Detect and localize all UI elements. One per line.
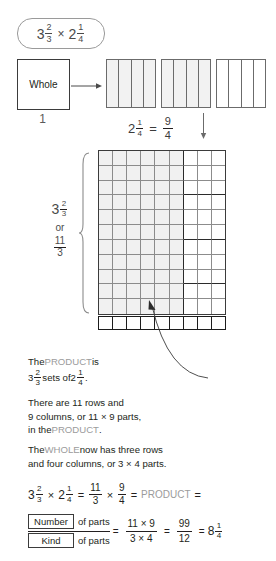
grid-cell (170, 151, 184, 166)
grid-row (99, 181, 225, 196)
final-answer-line: Number of parts Kind of parts = 11 × 9 3… (28, 514, 223, 548)
grid-cell (184, 166, 198, 181)
left-whole: 3 (52, 202, 60, 216)
grid-cell (113, 240, 127, 255)
grid-cell (198, 270, 212, 285)
grid-cell (198, 195, 212, 210)
grid-cell (198, 181, 212, 196)
grid-cell (99, 240, 113, 255)
bottom-strip-cell (113, 317, 127, 329)
final-fraction-1: 11 × 9 3 × 4 (126, 518, 157, 544)
grid-cell (170, 225, 184, 240)
number-over-kind-fraction: Number of parts Kind of parts (28, 514, 110, 548)
expression-pill: 3 2 3 × 2 1 4 (17, 18, 105, 49)
strip-equivalence-caption: 2 1 4 = 9 4 (128, 116, 174, 141)
text-the: The (28, 355, 45, 369)
text-in-the: in the (28, 423, 51, 437)
grid-row (99, 210, 225, 225)
grid-cell (99, 255, 113, 270)
grid-cell (141, 210, 155, 225)
grid-cell (113, 284, 127, 299)
denominator-row: Kind of parts (28, 533, 110, 548)
text-rows-line-1: There are 11 rows and (28, 396, 208, 410)
whole-box: Whole (17, 59, 70, 110)
text-whole-line-2: and four columns, or 3 × 4 parts. (28, 457, 228, 471)
grid-cell (212, 299, 225, 314)
strip-cell (187, 60, 199, 107)
text-period: . (99, 423, 102, 437)
pill-whole-b: 2 (69, 27, 77, 41)
text-rows-line-3: in the PRODUCT . (28, 423, 208, 437)
final-equals-1: = (113, 526, 119, 537)
strip-cell (242, 60, 254, 107)
grid-cell (127, 195, 141, 210)
bottom-strip-cell (99, 317, 113, 329)
number-box: Number (28, 514, 74, 529)
strip-equals-symbol: = (149, 121, 157, 136)
grid-row (99, 284, 225, 299)
grid-row (99, 195, 225, 210)
quarter-strip-1 (106, 59, 156, 108)
text-product-block: The PRODUCT is 3 2 3 sets of 2 1 4 (28, 355, 198, 387)
eq-mixed-a: 3 2 3 (28, 485, 44, 504)
left-multiplier-label: 3 2 3 or 11 3 (42, 200, 78, 259)
grid-cell (127, 270, 141, 285)
fraction-bar (28, 531, 110, 532)
strip-cell (229, 60, 241, 107)
grid-cell (155, 166, 169, 181)
grid-cell (113, 181, 127, 196)
grid-cell (141, 284, 155, 299)
arrow-down-icon (199, 113, 208, 139)
eq-whole-a: 3 (28, 488, 35, 502)
strip-cell (107, 60, 119, 107)
grid-row (99, 166, 225, 181)
final-answer: 8 1 4 (208, 522, 224, 541)
strip-cell (217, 60, 229, 107)
product-whole-b: 2 (71, 371, 76, 385)
grid-cell (141, 195, 155, 210)
grid-cell (198, 151, 212, 166)
strip-improper-fraction: 9 4 (163, 116, 173, 141)
grid-cell (184, 151, 198, 166)
grid-cell (141, 181, 155, 196)
answer-whole: 8 (208, 524, 215, 538)
grid-cell (127, 225, 141, 240)
eq-equals-1: = (78, 489, 84, 501)
grid-cell (184, 210, 198, 225)
final-equals-2: = (164, 526, 170, 537)
product-grid (98, 150, 226, 315)
left-fraction: 2 3 (60, 200, 67, 219)
grid-row (99, 151, 225, 166)
grid-cell (212, 166, 225, 181)
grid-cell (155, 225, 169, 240)
of-parts-top: of parts (78, 515, 110, 528)
grid-cell (212, 225, 225, 240)
left-mixed-number: 3 2 3 (42, 200, 78, 219)
strip-fraction: 1 4 (136, 119, 143, 138)
product-whole-a: 3 (28, 371, 33, 385)
grid-cell (127, 151, 141, 166)
text-whole-block: The WHOLE now has three rows and four co… (28, 443, 228, 470)
strip-whole: 2 (128, 122, 135, 135)
grid-cell (113, 166, 127, 181)
eq-whole-b: 2 (58, 488, 65, 502)
eq-mixed-b: 2 1 4 (58, 485, 74, 504)
grid-cell (212, 195, 225, 210)
grid-cell (113, 210, 127, 225)
grid-cell (99, 151, 113, 166)
pill-num-a: 2 (45, 23, 52, 32)
product-den-a: 3 (35, 379, 41, 387)
grid-cell (198, 284, 212, 299)
bottom-strip-cell (212, 317, 225, 329)
left-or-label: or (42, 222, 78, 233)
text-period: . (85, 371, 88, 385)
grid-cell (212, 255, 225, 270)
answer-den: 4 (216, 532, 222, 540)
grid-row (99, 270, 225, 285)
grid-cell (184, 270, 198, 285)
grid-cell (127, 210, 141, 225)
grid-row (99, 255, 225, 270)
keyword-product: PRODUCT (51, 423, 98, 437)
answer-fraction: 1 4 (215, 522, 222, 541)
grid-cell (212, 284, 225, 299)
